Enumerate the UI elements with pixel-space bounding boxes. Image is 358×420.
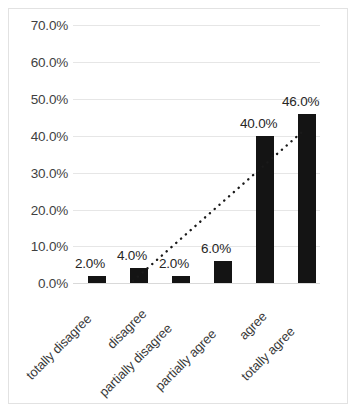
y-axis-tick-70: 70.0% — [6, 18, 68, 33]
bar-disagree — [130, 268, 148, 283]
data-label-partially-disagree: 2.0% — [159, 256, 189, 271]
x-axis-label-agree: agree — [236, 309, 270, 343]
data-label-totally-agree: 46.0% — [282, 94, 319, 109]
bar-agree — [256, 136, 274, 283]
axis-baseline-0 — [73, 283, 320, 284]
bar-partially-agree — [214, 261, 232, 283]
gridline-20 — [73, 210, 320, 211]
bar-chart: 70.0% 60.0% 50.0% 40.0% 30.0% 20.0% 10.0… — [0, 0, 358, 420]
data-label-totally-disagree: 2.0% — [75, 256, 105, 271]
y-axis-tick-30: 30.0% — [6, 166, 68, 181]
gridline-70 — [73, 25, 320, 26]
gridline-30 — [73, 173, 320, 174]
y-axis-tick-50: 50.0% — [6, 92, 68, 107]
gridline-60 — [73, 62, 320, 63]
x-axis-label-totally-disagree: totally disagree — [23, 311, 94, 382]
y-axis-tick-0: 0.0% — [6, 276, 68, 291]
gridline-10 — [73, 246, 320, 247]
bar-totally-disagree — [88, 276, 106, 283]
data-label-partially-agree: 6.0% — [201, 241, 231, 256]
bar-partially-disagree — [172, 276, 190, 283]
bar-totally-agree — [298, 114, 316, 283]
gridline-40 — [73, 136, 320, 137]
y-axis-tick-40: 40.0% — [6, 129, 68, 144]
y-axis-tick-10: 10.0% — [6, 239, 68, 254]
y-axis-tick-20: 20.0% — [6, 203, 68, 218]
data-label-disagree: 4.0% — [117, 248, 147, 263]
data-label-agree: 40.0% — [240, 116, 277, 131]
y-axis-tick-60: 60.0% — [6, 55, 68, 70]
